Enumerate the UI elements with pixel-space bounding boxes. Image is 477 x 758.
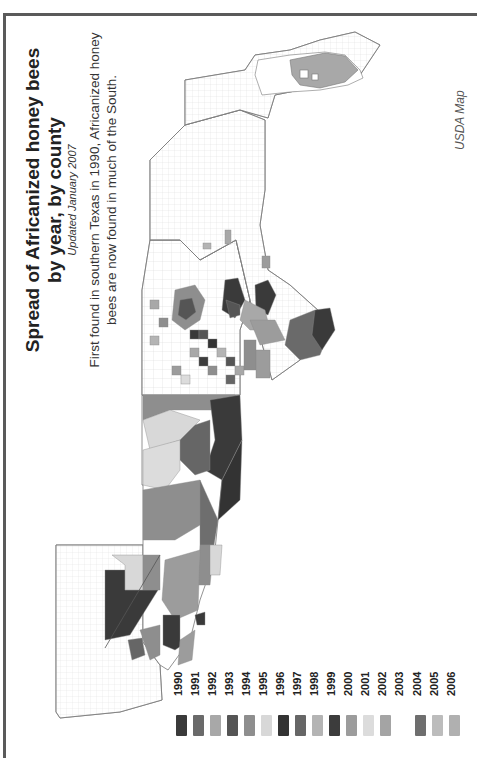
legend-label: 1996 [274, 672, 286, 696]
west-counties [105, 395, 242, 665]
legend-swatch [210, 715, 221, 736]
legend-swatch [397, 715, 408, 736]
legend-swatch [278, 715, 289, 736]
legend-swatch [312, 715, 323, 736]
legend-label: 2003 [393, 672, 405, 696]
legend-label: 2005 [428, 672, 440, 696]
legend-label: 1993 [223, 672, 235, 696]
legend-swatch [329, 715, 340, 736]
legend-swatch [244, 715, 255, 736]
base-land [56, 32, 380, 718]
legend-swatch [415, 715, 426, 736]
legend-swatch [193, 715, 204, 736]
legend-swatch [295, 715, 306, 736]
legend-label: 2004 [411, 672, 423, 696]
legend-label: 1994 [240, 672, 252, 696]
legend-label: 2000 [342, 672, 354, 696]
legend-label: 2002 [376, 672, 388, 696]
legend-label: 1995 [257, 672, 269, 696]
legend-swatch [449, 715, 460, 736]
legend-label: 1991 [189, 672, 201, 696]
legend-label: 1992 [206, 672, 218, 696]
legend-swatch [380, 715, 391, 736]
legend-label: 2001 [359, 672, 371, 696]
florida-region [255, 52, 363, 95]
legend-label: 1997 [291, 672, 303, 696]
legend-label: 2006 [445, 672, 457, 696]
legend-swatch [176, 715, 187, 736]
legend-label: 1998 [308, 672, 320, 696]
legend-swatch [227, 715, 238, 736]
legend-swatch [363, 715, 374, 736]
legend-swatch [432, 715, 443, 736]
legend-label: 1990 [172, 672, 184, 696]
legend-swatch [346, 715, 357, 736]
legend-label: 1999 [325, 672, 337, 696]
legend-swatch [261, 715, 272, 736]
